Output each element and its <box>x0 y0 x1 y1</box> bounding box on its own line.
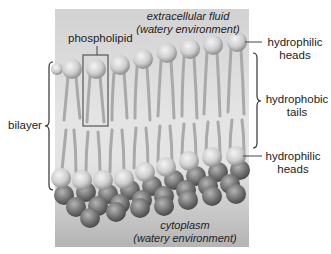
bilayer-brace <box>45 62 53 190</box>
extracellular-label: extracellular fluid (watery environment) <box>128 10 248 36</box>
hydrophilic-heads-bottom-label: hydrophilic heads <box>260 150 326 176</box>
tails-line1: hydrophobic <box>262 93 331 106</box>
cytoplasm-line1: cytoplasm <box>125 219 245 232</box>
cytoplasm-label: cytoplasm (watery environment) <box>125 219 245 245</box>
extracellular-line1: extracellular fluid <box>128 10 248 23</box>
bilayer-label: bilayer <box>8 119 42 132</box>
cytoplasm-line2: (watery environment) <box>125 232 245 245</box>
heads-top-line2: heads <box>262 49 328 62</box>
hydrophilic-heads-top-label: hydrophilic heads <box>262 36 328 62</box>
hydrophobic-tails-label: hydrophobic tails <box>262 93 331 119</box>
heads-bottom-line2: heads <box>260 163 326 176</box>
extracellular-line2: (watery environment) <box>128 23 248 36</box>
tails-brace <box>253 53 261 148</box>
phospholipid-label: phospholipid <box>68 32 133 45</box>
heads-bottom-line1: hydrophilic <box>260 150 326 163</box>
heads-top-line1: hydrophilic <box>262 36 328 49</box>
tails-line2: tails <box>262 106 331 119</box>
